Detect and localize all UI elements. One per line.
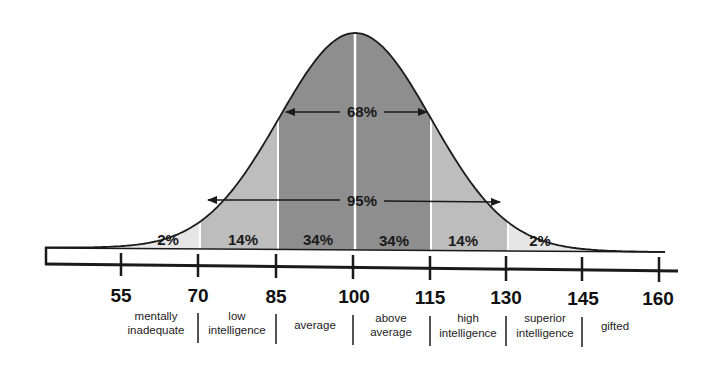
iq-bell-curve-chart: 68% 95% 2% 14% 34% 34% 14% 2% 55	[0, 0, 712, 366]
region-high	[431, 0, 508, 255]
region-above-average	[355, 0, 431, 250]
pct-label-85-100: 34%	[303, 231, 333, 248]
tick-labels: 55 70 85 100 115 130 145 160	[110, 285, 673, 309]
cat-average: average	[294, 319, 336, 331]
cat-mentally-inadequate-line1: mentally	[135, 310, 178, 322]
x-axis	[45, 247, 678, 282]
tick-label-85: 85	[265, 286, 287, 307]
cat-superior-intelligence-line1: superior	[524, 312, 566, 324]
pct-label-55-70: 2%	[157, 231, 179, 248]
pct-label-130-145: 2%	[529, 232, 551, 249]
cat-low-intelligence-line2: intelligence	[208, 324, 266, 336]
region-average	[278, 0, 355, 250]
cat-above-average-line2: average	[370, 326, 412, 338]
arrow-68-label: 68%	[347, 103, 377, 120]
cat-high-intelligence-line2: intelligence	[439, 327, 497, 339]
tick-label-115: 115	[415, 287, 446, 308]
cat-high-intelligence-line1: high	[457, 312, 479, 324]
tick-label-100: 100	[338, 286, 370, 307]
cat-superior-intelligence-line2: intelligence	[516, 327, 574, 339]
cat-gifted: gifted	[601, 320, 629, 332]
arrow-95-label: 95%	[347, 192, 377, 209]
pct-label-115-130: 14%	[448, 232, 478, 249]
tick-label-130: 130	[490, 287, 522, 308]
tick-label-55: 55	[110, 285, 132, 306]
region-tail-left	[40, 0, 200, 250]
cat-low-intelligence-line1: low	[228, 310, 246, 322]
tick-label-70: 70	[187, 285, 208, 306]
pct-label-100-115: 34%	[379, 232, 409, 249]
pct-label-70-85: 14%	[228, 231, 258, 248]
cat-mentally-inadequate-line2: inadequate	[128, 324, 185, 336]
shaded-regions	[40, 0, 678, 255]
tick-label-160: 160	[642, 288, 674, 309]
region-tail-right	[508, 0, 678, 255]
cat-above-average-line1: above	[375, 312, 406, 324]
tick-label-145: 145	[567, 288, 599, 309]
category-labels: mentally inadequate low intelligence ave…	[128, 310, 630, 339]
